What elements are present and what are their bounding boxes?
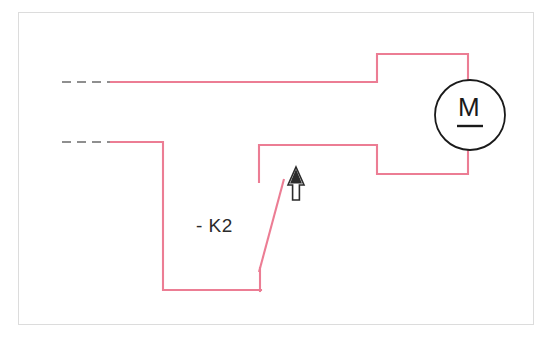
schematic-canvas: M - K2 <box>0 0 552 339</box>
contact-arm-k2 <box>259 179 284 272</box>
wire-lower-left-branch <box>111 142 261 290</box>
schematic-drawing <box>0 0 552 339</box>
manual-actuation-arrow-icon <box>288 167 304 200</box>
wire-upper-supply <box>111 54 468 82</box>
contactor-designation-label: - K2 <box>196 215 233 237</box>
wire-lower-right-branch <box>259 145 468 182</box>
motor-label: M <box>458 94 480 120</box>
